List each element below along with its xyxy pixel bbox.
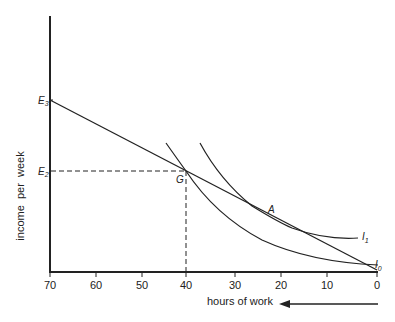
svg-text:E2: E2 [38, 166, 49, 178]
x-tick-labels: 70 60 50 40 30 20 10 0 [44, 279, 380, 291]
point-a-label: A [267, 204, 275, 215]
point-g-label: G [176, 174, 184, 185]
tick-50: 50 [136, 279, 148, 291]
labor-supply-chart: 70 60 50 40 30 20 10 0 income per week h… [0, 0, 395, 322]
svg-text:E3: E3 [38, 95, 49, 107]
tick-10: 10 [321, 279, 333, 291]
direction-arrow-icon [279, 300, 378, 308]
tick-40: 40 [180, 279, 192, 291]
tick-70: 70 [44, 279, 56, 291]
budget-line [50, 100, 377, 270]
x-axis-title: hours of work [207, 295, 274, 307]
i1-label: I1 [362, 231, 369, 244]
tick-60: 60 [90, 279, 102, 291]
tick-30: 30 [229, 279, 241, 291]
y-axis-title: income per week [14, 151, 26, 241]
tick-0: 0 [374, 279, 380, 291]
e2-label: E2 [38, 166, 49, 178]
tick-20: 20 [275, 279, 287, 291]
